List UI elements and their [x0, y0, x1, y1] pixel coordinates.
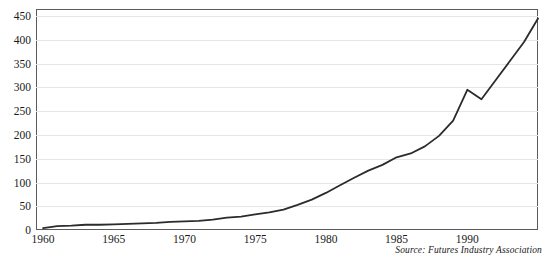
y-axis-tick-label: 50 [0, 200, 31, 212]
x-axis-tick-label: 1960 [21, 233, 65, 246]
plot-area [36, 9, 538, 230]
source-note: Source: Futures Industry Association [395, 245, 542, 256]
y-axis-tick-label: 350 [0, 58, 31, 70]
x-axis-tick-label: 1965 [92, 233, 136, 246]
y-axis-tick-label: 200 [0, 129, 31, 141]
y-axis-tick-label: 300 [0, 81, 31, 93]
y-axis-tick-label: 250 [0, 105, 31, 117]
series-line-futures-contracts-traded [43, 19, 538, 229]
y-axis-tick-label: 0 [0, 224, 31, 236]
x-axis-tick-label: 1980 [304, 233, 348, 246]
data-line-svg [36, 9, 538, 230]
futures-volume-chart: 050100150200250300350400450 196019651970… [0, 0, 548, 259]
y-axis-tick-label: 150 [0, 153, 31, 165]
y-axis-tick-label: 400 [0, 34, 31, 46]
x-axis-tick-label: 1975 [233, 233, 277, 246]
y-axis-tick-label: 450 [0, 10, 31, 22]
y-axis-tick-label: 100 [0, 177, 31, 189]
x-axis-tick-label: 1970 [163, 233, 207, 246]
